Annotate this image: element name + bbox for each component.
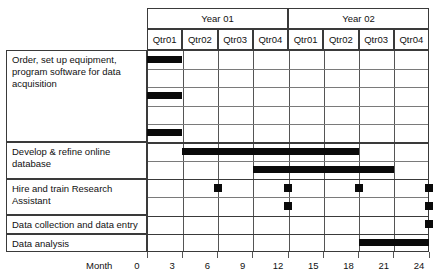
header-quarter-label: Qtr02 bbox=[188, 34, 212, 46]
axis-tick bbox=[323, 252, 324, 258]
header-year-2: Year 02 bbox=[288, 8, 429, 29]
axis-tick-label: 6 bbox=[198, 260, 218, 271]
gantt-bar bbox=[147, 92, 182, 99]
task-label-line: Develop & refine online bbox=[12, 146, 146, 158]
task-label-line: Data collection and data entry bbox=[12, 219, 146, 231]
gantt-bar bbox=[359, 239, 430, 246]
gantt-milestone bbox=[355, 184, 363, 192]
gantt-bar bbox=[147, 56, 182, 63]
axis-tick-label: 24 bbox=[409, 260, 429, 271]
gantt-bar bbox=[253, 166, 394, 173]
header-quarter-label: Qtr03 bbox=[364, 34, 388, 46]
task-label-line: acquisition bbox=[12, 78, 146, 90]
grid-line-horizontal bbox=[148, 87, 428, 88]
header-quarter-7: Qtr03 bbox=[359, 29, 394, 50]
gantt-milestone bbox=[284, 184, 292, 192]
axis-tick bbox=[147, 252, 148, 258]
task-label-line: Order, set up equipment, bbox=[12, 54, 146, 66]
grid-separator bbox=[148, 179, 428, 180]
task-label-2: Develop & refine onlinedatabase bbox=[6, 142, 147, 179]
grid-line-horizontal bbox=[148, 106, 428, 107]
header-quarter-label: Qtr02 bbox=[329, 34, 353, 46]
axis-tick bbox=[252, 252, 253, 258]
axis-tick bbox=[429, 252, 430, 258]
axis-tick bbox=[358, 252, 359, 258]
axis-tick-label: 12 bbox=[268, 260, 288, 271]
task-label-line: Assistant bbox=[12, 195, 146, 207]
axis-tick-label: 15 bbox=[303, 260, 323, 271]
header-quarter-6: Qtr02 bbox=[323, 29, 358, 50]
header-quarter-label: Qtr03 bbox=[223, 34, 247, 46]
axis-tick bbox=[288, 252, 289, 258]
gantt-bar bbox=[182, 148, 358, 155]
task-label-1: Order, set up equipment,program software… bbox=[6, 50, 147, 142]
gantt-bar bbox=[147, 129, 182, 136]
axis-tick bbox=[393, 252, 394, 258]
grid-line-horizontal bbox=[148, 124, 428, 125]
task-label-line: Data analysis bbox=[12, 238, 146, 250]
header-quarter-5: Qtr01 bbox=[288, 29, 323, 50]
header-quarter-label: Qtr04 bbox=[399, 34, 423, 46]
axis-tick-label: 0 bbox=[127, 260, 147, 271]
gantt-milestone bbox=[425, 202, 433, 210]
gantt-chart: Year 01Year 02Qtr01Qtr02Qtr03Qtr04Qtr01Q… bbox=[0, 0, 435, 278]
task-label-line: program software for data bbox=[12, 66, 146, 78]
header-quarter-label: Qtr04 bbox=[258, 34, 282, 46]
task-label-4: Data collection and data entry bbox=[6, 215, 147, 233]
header-quarter-2: Qtr02 bbox=[182, 29, 217, 50]
grid-line-vertical bbox=[359, 51, 360, 251]
header-year-label: Year 01 bbox=[201, 13, 233, 25]
task-label-3: Hire and train ResearchAssistant bbox=[6, 179, 147, 216]
axis-tick-label: 21 bbox=[374, 260, 394, 271]
axis-tick-label: 3 bbox=[162, 260, 182, 271]
header-quarter-8: Qtr04 bbox=[394, 29, 429, 50]
header-year-label: Year 02 bbox=[342, 13, 374, 25]
gantt-milestone bbox=[425, 220, 433, 228]
task-label-line: Hire and train Research bbox=[12, 183, 146, 195]
header-quarter-1: Qtr01 bbox=[147, 29, 182, 50]
grid-line-horizontal bbox=[148, 161, 428, 162]
grid-separator bbox=[148, 234, 428, 235]
task-label-5: Data analysis bbox=[6, 234, 147, 252]
axis-tick-label: 9 bbox=[233, 260, 253, 271]
axis-tick bbox=[182, 252, 183, 258]
grid-separator bbox=[148, 216, 428, 217]
header-quarter-4: Qtr04 bbox=[253, 29, 288, 50]
gantt-milestone bbox=[284, 202, 292, 210]
gantt-milestone bbox=[425, 184, 433, 192]
gantt-milestone bbox=[214, 184, 222, 192]
grid-line-horizontal bbox=[148, 69, 428, 70]
header-quarter-label: Qtr01 bbox=[153, 34, 177, 46]
grid-line-vertical bbox=[394, 51, 395, 251]
header-year-1: Year 01 bbox=[147, 8, 288, 29]
grid-line-horizontal bbox=[148, 197, 428, 198]
axis-tick-label: 18 bbox=[339, 260, 359, 271]
axis-tick bbox=[217, 252, 218, 258]
task-label-line: database bbox=[12, 158, 146, 170]
grid-separator bbox=[148, 142, 428, 143]
header-quarter-label: Qtr01 bbox=[294, 34, 318, 46]
header-quarter-3: Qtr03 bbox=[218, 29, 253, 50]
axis-title-month: Month bbox=[86, 260, 112, 271]
